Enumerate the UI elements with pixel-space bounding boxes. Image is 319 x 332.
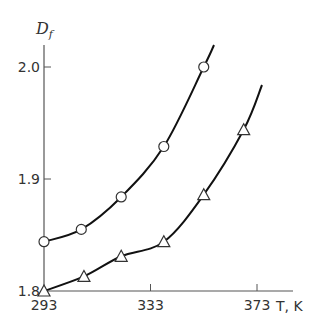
markers bbox=[38, 62, 250, 296]
triangle-marker bbox=[238, 124, 250, 135]
curves bbox=[44, 45, 262, 291]
circle-marker bbox=[199, 62, 209, 72]
curve-circles bbox=[44, 45, 214, 242]
chart: 1.81.92.0293333373T, KDf bbox=[0, 0, 319, 332]
labels: 1.81.92.0293333373T, KDf bbox=[18, 19, 304, 314]
curve-triangles bbox=[44, 85, 262, 291]
x-tick-label: 373 bbox=[244, 297, 271, 313]
y-axis-label: Df bbox=[35, 19, 55, 41]
y-tick-label: 2.0 bbox=[18, 59, 40, 75]
y-axis-label-sub: f bbox=[48, 28, 55, 41]
circle-marker bbox=[76, 224, 86, 234]
circle-marker bbox=[159, 142, 169, 152]
x-tick-label: 293 bbox=[31, 297, 58, 313]
y-tick-label: 1.9 bbox=[18, 171, 40, 187]
triangle-marker bbox=[78, 270, 90, 281]
circle-marker bbox=[116, 192, 126, 202]
axes bbox=[44, 45, 293, 291]
circle-marker bbox=[39, 237, 49, 247]
x-tick-label: 333 bbox=[137, 297, 164, 313]
x-axis-label: T, K bbox=[275, 298, 303, 314]
